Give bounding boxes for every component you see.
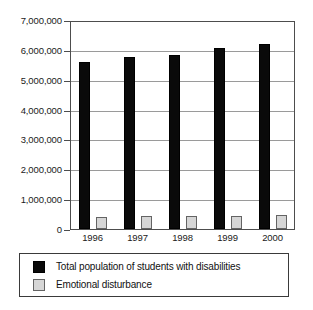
bar-chart-figure: 01,000,0002,000,0003,000,0004,000,0005,0…	[0, 0, 313, 310]
bar-emotional-disturbance	[276, 215, 287, 229]
legend-item-emotional-disturbance: Emotional disturbance	[33, 277, 152, 293]
y-axis-tick-label: 7,000,000	[0, 16, 62, 26]
bar-total-population	[124, 57, 135, 229]
bar-emotional-disturbance	[186, 216, 197, 229]
x-axis-tick-label: 2000	[250, 232, 295, 244]
x-axis-tick-label: 1996	[70, 232, 115, 244]
y-axis-tick-label: 0	[0, 225, 62, 235]
bar-total-population	[214, 48, 225, 229]
y-axis-tick-label: 4,000,000	[0, 106, 62, 116]
y-axis-tick-label: 3,000,000	[0, 135, 62, 145]
y-axis-tick-label: 6,000,000	[0, 46, 62, 56]
bar-emotional-disturbance	[231, 216, 242, 229]
y-axis-tick-label: 1,000,000	[0, 195, 62, 205]
x-axis-tick-label: 1997	[115, 232, 160, 244]
x-axis-tick-label: 1998	[160, 232, 205, 244]
bar-emotional-disturbance	[141, 216, 152, 229]
bar-group	[71, 22, 116, 229]
y-axis-tick-label: 5,000,000	[0, 76, 62, 86]
plot-area	[70, 21, 295, 230]
y-axis-tick-mark	[64, 230, 70, 231]
y-axis-tick-label: 2,000,000	[0, 165, 62, 175]
bar-total-population	[259, 44, 270, 229]
legend-item-total-population: Total population of students with disabi…	[33, 259, 240, 275]
gray-square-swatch-icon	[33, 279, 45, 291]
bar-emotional-disturbance	[96, 217, 107, 229]
x-axis-tick-label: 1999	[205, 232, 250, 244]
legend-label-emotional-disturbance: Emotional disturbance	[56, 279, 152, 291]
black-square-swatch-icon	[33, 261, 45, 273]
chart-legend: Total population of students with disabi…	[19, 253, 289, 297]
x-axis: 19961997199819992000	[70, 232, 295, 246]
bar-group	[251, 22, 296, 229]
legend-label-total-population: Total population of students with disabi…	[56, 261, 240, 273]
bar-total-population	[79, 62, 90, 229]
bar-group	[206, 22, 251, 229]
bar-group	[161, 22, 206, 229]
bar-group	[116, 22, 161, 229]
bar-total-population	[169, 55, 180, 229]
